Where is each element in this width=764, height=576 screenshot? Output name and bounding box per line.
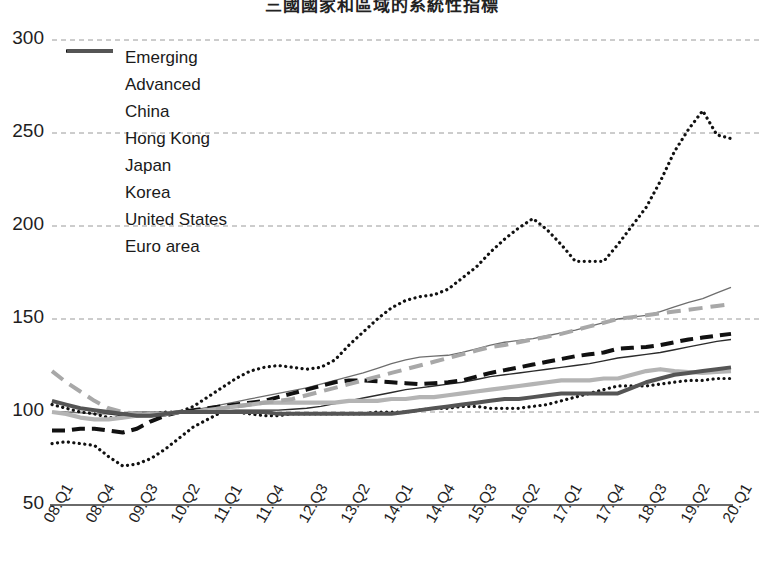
series-line-advanced [52, 339, 731, 416]
legend-item-united-states[interactable]: United States [66, 206, 227, 233]
legend-swatch-icon [66, 132, 114, 146]
chart-root: 三國國家和區域的系統性指標 30025020015010050 08.Q108.… [0, 0, 764, 576]
legend-swatch-icon [66, 240, 114, 254]
legend-swatch-icon [66, 105, 114, 119]
y-tick-label: 150 [0, 306, 44, 328]
legend-item-korea[interactable]: Korea [66, 179, 227, 206]
y-tick-label: 250 [0, 120, 44, 142]
y-tick-label: 100 [0, 399, 44, 421]
legend-swatch-icon [66, 78, 114, 92]
y-tick-label: 300 [0, 27, 44, 49]
legend-item-advanced[interactable]: Advanced [66, 71, 227, 98]
legend-label: Korea [125, 183, 170, 203]
legend-label: China [125, 102, 169, 122]
legend-label: Japan [125, 156, 171, 176]
chart-legend: EmergingAdvancedChinaHong KongJapanKorea… [66, 44, 227, 260]
legend-item-japan[interactable]: Japan [66, 152, 227, 179]
legend-label: Hong Kong [125, 129, 210, 149]
legend-swatch-icon [66, 186, 114, 200]
legend-swatch-icon [66, 159, 114, 173]
y-tick-label: 200 [0, 213, 44, 235]
legend-swatch-icon [66, 213, 114, 227]
legend-item-hong-kong[interactable]: Hong Kong [66, 125, 227, 152]
series-line-emerging [52, 287, 731, 413]
series-line-china [52, 334, 731, 433]
legend-item-euro-area[interactable]: Euro area [66, 233, 227, 260]
legend-item-china[interactable]: China [66, 98, 227, 125]
legend-label: United States [125, 210, 227, 230]
legend-label: Emerging [125, 48, 198, 68]
legend-label: Euro area [125, 237, 200, 257]
y-tick-label: 50 [0, 492, 44, 514]
legend-label: Advanced [125, 75, 201, 95]
